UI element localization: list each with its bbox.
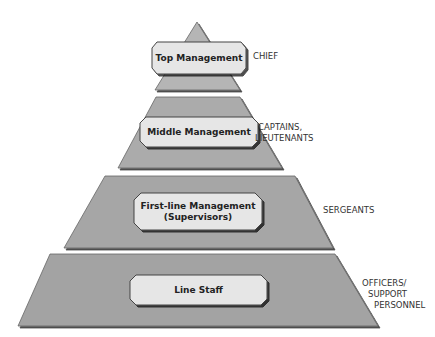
first-line-management-label: First-line Management (Supervisors) [134, 193, 262, 230]
rank-line: PERSONNEL [362, 300, 425, 311]
rank-line: SUPPORT [362, 289, 425, 300]
rank-officers-support: OFFICERS/ SUPPORT PERSONNEL [362, 278, 425, 311]
rank-line: CAPTAINS, [255, 122, 314, 133]
rank-sergeants: SERGEANTS [323, 205, 374, 216]
level-line: First-line Management [140, 201, 255, 212]
rank-line: LIEUTENANTS [255, 133, 314, 144]
level-line: (Supervisors) [164, 212, 232, 223]
rank-captains-lieutenants: CAPTAINS, LIEUTENANTS [255, 122, 314, 144]
rank-line: OFFICERS/ [362, 278, 425, 289]
middle-management-label: Middle Management [140, 117, 258, 147]
line-staff-label: Line Staff [130, 275, 267, 305]
rank-chief: CHIEF [253, 51, 278, 62]
top-management-label: Top Management [152, 42, 246, 74]
